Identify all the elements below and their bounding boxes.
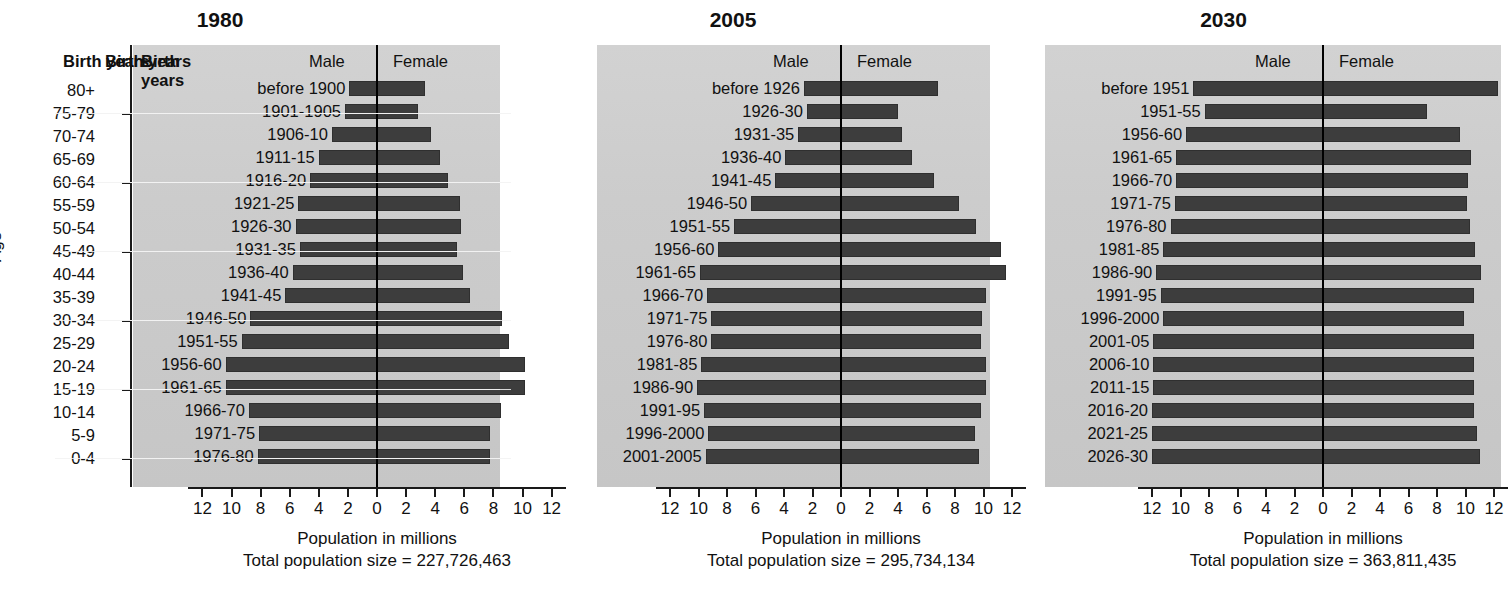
- birth-year-label: 1921-25: [234, 194, 295, 213]
- x-axis-tick: [812, 489, 814, 497]
- bar-male: [1205, 104, 1323, 119]
- x-axis-tick-label: 0: [362, 499, 392, 519]
- birth-year-label: 1946-50: [687, 194, 748, 213]
- bar-female: [841, 265, 1006, 280]
- bar-female: [1323, 173, 1468, 188]
- x-axis-tick-label: 2: [798, 499, 828, 519]
- panel-title: 2005: [488, 8, 978, 32]
- x-axis-tick: [1294, 489, 1296, 497]
- bar-female: [377, 196, 460, 211]
- bar-male: [807, 104, 841, 119]
- bar-female: [841, 196, 959, 211]
- x-axis-title: Population in millions: [1068, 529, 1512, 549]
- bar-male: [300, 242, 377, 257]
- male-header: Male: [309, 52, 345, 71]
- bar-male: [1152, 449, 1323, 464]
- x-axis-tick-label: 4: [883, 499, 913, 519]
- birth-year-label: 2026-30: [1087, 447, 1148, 466]
- x-axis-tick: [1265, 489, 1267, 497]
- x-axis-tick: [201, 489, 203, 497]
- x-axis-tick-label: 2: [333, 499, 363, 519]
- birth-year-label: 2006-10: [1089, 355, 1150, 374]
- bar-male: [258, 449, 377, 464]
- table-row: 1936-40: [0, 263, 500, 282]
- x-axis-tick-label: 0: [1308, 499, 1338, 519]
- bar-male: [332, 127, 377, 142]
- table-row: 1971-75: [990, 194, 1501, 213]
- x-axis-tick: [1493, 489, 1495, 497]
- table-row: 1976-80: [990, 217, 1501, 236]
- table-row: 1961-65: [0, 378, 500, 397]
- female-header: Female: [1339, 52, 1394, 71]
- bar-male: [798, 127, 841, 142]
- x-axis-tick: [1351, 489, 1353, 497]
- table-row: 2016-20: [990, 401, 1501, 420]
- bar-male: [1156, 265, 1323, 280]
- birth-year-label: 1966-70: [184, 401, 245, 420]
- table-row: 1966-70: [990, 171, 1501, 190]
- x-axis-tick-label: 4: [420, 499, 450, 519]
- total-population-label: Total population size = 363,811,435: [1068, 551, 1512, 571]
- bar-rows: before 19261926-301931-351936-401941-451…: [500, 79, 990, 483]
- table-row: 1941-45: [0, 286, 500, 305]
- bar-male: [310, 173, 377, 188]
- birth-year-label: 1956-60: [161, 355, 222, 374]
- bar-male: [242, 334, 377, 349]
- birth-year-label: 2016-20: [1087, 401, 1148, 420]
- bar-male: [1153, 357, 1323, 372]
- birth-year-label: 1956-60: [654, 240, 715, 259]
- panel-2030: 2030 Birth years Male Female before 1951…: [990, 0, 1501, 609]
- birth-year-label: 1961-65: [161, 378, 222, 397]
- birth-year-label: 1971-75: [1110, 194, 1171, 213]
- bar-male: [704, 403, 841, 418]
- x-axis-tick: [783, 489, 785, 497]
- gridline: [55, 251, 511, 252]
- bar-male: [711, 311, 841, 326]
- table-row: 1951-55: [990, 102, 1501, 121]
- table-row: 1946-50: [500, 194, 990, 213]
- gridline: [55, 113, 511, 114]
- birth-year-label: 1971-75: [647, 309, 708, 328]
- table-row: 1951-55: [0, 332, 500, 351]
- bar-female: [841, 334, 981, 349]
- bar-female: [841, 81, 938, 96]
- birth-year-label: 1991-95: [1096, 286, 1157, 305]
- gridline: [55, 389, 511, 390]
- bar-female: [841, 219, 976, 234]
- x-axis-tick: [1237, 489, 1239, 497]
- birth-year-label: 2011-15: [1090, 378, 1149, 397]
- bar-female: [1323, 449, 1480, 464]
- table-row: 1971-75: [500, 309, 990, 328]
- birth-year-label: 1901-1905: [262, 102, 341, 121]
- bar-female: [1323, 334, 1474, 349]
- bar-male: [1186, 127, 1323, 142]
- gridline: [55, 458, 511, 459]
- table-row: 1996-2000: [990, 309, 1501, 328]
- birth-year-label: 1986-90: [633, 378, 694, 397]
- bar-female: [1323, 219, 1470, 234]
- bar-female: [841, 311, 982, 326]
- x-axis-tick-label: 2: [1280, 499, 1310, 519]
- bar-female: [841, 426, 975, 441]
- x-axis-tick-label: 10: [1166, 499, 1196, 519]
- bar-female: [841, 288, 986, 303]
- birth-year-label: 1976-80: [647, 332, 708, 351]
- table-row: 1981-85: [990, 240, 1501, 259]
- bar-male: [1152, 426, 1323, 441]
- bar-male: [249, 403, 377, 418]
- x-axis-tick-label: 2: [855, 499, 885, 519]
- table-row: 1956-60: [500, 240, 990, 259]
- x-axis-tick-label: 12: [187, 499, 217, 519]
- bar-male: [708, 426, 841, 441]
- table-row: 1906-10: [0, 125, 500, 144]
- birth-year-label: 1981-85: [637, 355, 698, 374]
- bar-male: [718, 242, 841, 257]
- zero-axis-line: [1322, 45, 1324, 487]
- x-axis-tick-label: 4: [304, 499, 334, 519]
- bar-female: [1323, 265, 1481, 280]
- bar-female: [841, 380, 986, 395]
- x-axis-tick-label: 8: [246, 499, 276, 519]
- gridline: [55, 182, 511, 183]
- bar-male: [250, 311, 377, 326]
- bar-male: [1163, 242, 1323, 257]
